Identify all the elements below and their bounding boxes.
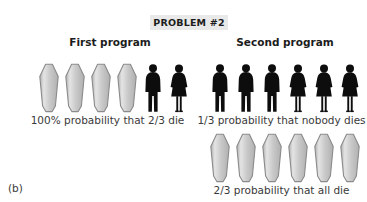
person-female-icon (167, 61, 190, 113)
problem-title: PROBLEM #2 (150, 15, 228, 30)
icon-row-second-program-survivors (208, 61, 361, 113)
person-male-icon (208, 61, 231, 113)
coffin-icon (115, 61, 138, 113)
person-male-icon (260, 61, 283, 113)
caption-second-program-all-die: 2/3 probability that all die (194, 184, 367, 196)
coffin-icon (63, 61, 86, 113)
coffin-icon (286, 131, 309, 183)
caption-first-program: 100% probability that 2/3 die (20, 114, 195, 126)
person-female-icon (312, 61, 335, 113)
coffin-icon (312, 131, 335, 183)
person-male-icon (141, 61, 164, 113)
icon-row-second-program-all-die (208, 131, 361, 183)
column-heading-second-program: Second program (210, 36, 360, 48)
coffin-icon (89, 61, 112, 113)
caption-second-program-nobody-dies: 1/3 probability that nobody dies (194, 114, 367, 126)
coffin-icon (37, 61, 60, 113)
panel-label: (b) (8, 182, 23, 194)
person-female-icon (286, 61, 309, 113)
icon-row-first-program (37, 61, 190, 113)
coffin-icon (260, 131, 283, 183)
risk-framing-figure: PROBLEM #2 First program Second program … (0, 0, 367, 202)
coffin-icon (338, 131, 361, 183)
coffin-icon (208, 131, 231, 183)
person-female-icon (338, 61, 361, 113)
column-heading-first-program: First program (40, 36, 180, 48)
coffin-icon (234, 131, 257, 183)
person-male-icon (234, 61, 257, 113)
